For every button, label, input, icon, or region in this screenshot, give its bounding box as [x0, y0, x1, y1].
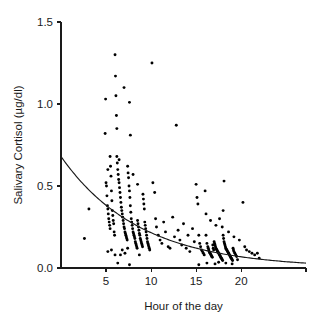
data-point	[109, 227, 112, 230]
data-point	[115, 114, 118, 117]
data-point	[116, 168, 119, 171]
data-point	[238, 239, 241, 242]
data-point	[195, 183, 198, 186]
data-point	[116, 162, 119, 165]
data-point	[115, 127, 118, 130]
data-point	[251, 252, 254, 255]
data-point	[132, 173, 135, 176]
data-point	[231, 259, 234, 262]
x-tick-label: 5	[103, 275, 109, 287]
data-point	[146, 237, 149, 240]
data-point	[119, 201, 122, 204]
data-point	[151, 181, 154, 184]
data-point	[188, 250, 191, 253]
data-point	[120, 206, 123, 209]
data-point	[196, 196, 199, 199]
data-point	[175, 124, 178, 127]
data-point	[222, 234, 225, 237]
data-point	[114, 53, 117, 56]
x-axis-title: Hour of the day	[144, 300, 223, 312]
data-point	[130, 217, 133, 220]
data-point	[129, 134, 132, 137]
data-point	[205, 262, 208, 265]
data-point	[127, 176, 130, 179]
scatter-points	[83, 53, 261, 266]
data-point	[126, 165, 129, 168]
data-point	[106, 168, 109, 171]
data-point	[131, 224, 134, 227]
x-axis-ticks	[106, 268, 306, 272]
x-tick-labels: 5101520	[103, 275, 248, 287]
data-point	[141, 245, 144, 248]
data-point	[108, 224, 111, 227]
data-point	[218, 217, 221, 220]
data-point	[217, 261, 220, 264]
data-point	[118, 186, 121, 189]
data-point	[113, 234, 116, 237]
data-point	[197, 234, 200, 237]
data-point	[112, 222, 115, 225]
data-point	[177, 229, 180, 232]
data-point	[106, 250, 109, 253]
data-point	[131, 227, 134, 230]
data-point	[112, 219, 115, 222]
data-point	[193, 240, 196, 243]
data-point	[126, 239, 129, 242]
data-point	[203, 253, 206, 256]
data-point	[205, 212, 208, 215]
data-point	[126, 247, 129, 250]
data-point	[138, 253, 141, 256]
data-point	[118, 181, 121, 184]
data-point	[221, 259, 224, 262]
data-point	[222, 237, 225, 240]
data-point	[122, 219, 125, 222]
data-point	[204, 189, 207, 192]
data-point	[119, 191, 122, 194]
data-point	[119, 253, 122, 256]
data-point	[114, 94, 117, 97]
data-point	[248, 250, 251, 253]
data-point	[205, 242, 208, 245]
data-point	[128, 189, 131, 192]
data-point	[214, 262, 217, 265]
data-point	[197, 263, 200, 266]
data-point	[224, 262, 227, 265]
data-point	[110, 199, 113, 202]
data-point	[122, 222, 125, 225]
data-point	[128, 196, 131, 199]
data-point	[107, 217, 110, 220]
data-point	[105, 194, 108, 197]
data-point	[137, 222, 140, 225]
data-point	[116, 262, 119, 265]
data-point	[114, 253, 117, 256]
data-point	[109, 165, 112, 168]
data-point	[227, 230, 230, 233]
data-point	[231, 262, 234, 265]
data-point	[221, 226, 224, 229]
data-point	[232, 235, 235, 238]
data-point	[123, 227, 126, 230]
data-point	[127, 171, 130, 174]
data-point	[191, 227, 194, 230]
data-point	[108, 221, 111, 224]
data-point	[178, 239, 181, 242]
data-point	[185, 247, 188, 250]
data-point	[137, 229, 140, 232]
data-point	[154, 217, 157, 220]
data-point	[114, 75, 117, 78]
data-point	[143, 208, 146, 211]
data-point	[124, 252, 127, 255]
data-point	[162, 221, 165, 224]
data-point	[144, 224, 147, 227]
data-point	[136, 247, 139, 250]
data-point	[164, 230, 167, 233]
data-point	[138, 234, 141, 237]
data-point	[148, 249, 151, 252]
data-point	[110, 175, 113, 178]
data-point	[136, 183, 139, 186]
data-point	[136, 219, 139, 222]
data-point	[253, 253, 256, 256]
data-point	[182, 222, 185, 225]
data-point	[117, 173, 120, 176]
data-point	[171, 216, 174, 219]
